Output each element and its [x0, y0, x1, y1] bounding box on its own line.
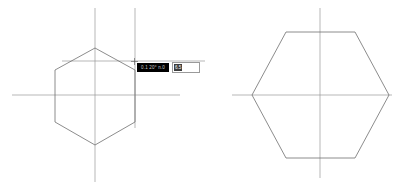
right-drawing-view[interactable] — [0, 0, 405, 190]
dimension-input-field[interactable]: 6.5 — [172, 62, 200, 73]
dimension-tooltip-group[interactable]: 0.1 20° n.0 6.5 — [137, 61, 200, 74]
cad-canvas-root: 0.1 20° n.0 6.5 — [0, 0, 405, 190]
dimension-input-value[interactable]: 6.5 — [174, 64, 182, 71]
dimension-tooltip-label: 0.1 20° n.0 — [137, 63, 169, 72]
right-centerlines — [232, 8, 392, 178]
